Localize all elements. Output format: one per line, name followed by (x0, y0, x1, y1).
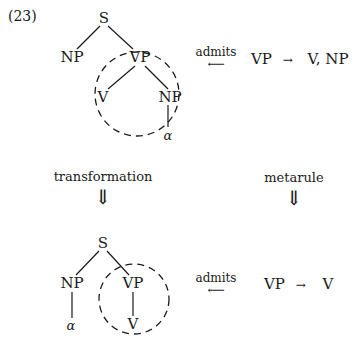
metarule-label: metarule (264, 171, 323, 184)
top-rule-rhs: V, NP (308, 50, 349, 68)
transformation-label: transformation (54, 170, 153, 183)
metarule-down-arrow-icon: ⇓ (286, 188, 303, 208)
example-number: (23) (8, 9, 37, 23)
top-node-s: S (99, 11, 109, 26)
bottom-node-alpha: α (67, 319, 76, 332)
top-node-np: NP (60, 50, 83, 65)
top-node-vp: VP (130, 50, 151, 65)
top-node-v: V (98, 90, 109, 105)
top-node-alpha: α (164, 129, 173, 142)
top-admits-arrow-icon: ⟵ (207, 58, 224, 70)
bottom-rule: VP → V (264, 277, 333, 292)
bottom-rule-arrow-icon: → (296, 278, 306, 292)
top-rule-arrow-icon: → (283, 53, 293, 67)
top-rule-lhs: VP (251, 50, 272, 68)
bottom-rule-lhs: VP (264, 275, 285, 293)
bottom-node-s: S (98, 236, 108, 251)
top-node-np-object: NP (158, 90, 181, 105)
bottom-node-vp: VP (123, 276, 144, 291)
bottom-node-np: NP (60, 276, 83, 291)
bottom-node-v: V (128, 317, 139, 332)
transformation-down-arrow-icon: ⇓ (95, 187, 112, 207)
top-rule: VP → V, NP (251, 52, 349, 67)
bottom-rule-rhs: V (323, 275, 334, 293)
bottom-admits-arrow-icon: ⟵ (207, 284, 224, 296)
